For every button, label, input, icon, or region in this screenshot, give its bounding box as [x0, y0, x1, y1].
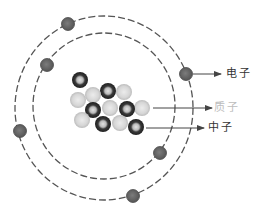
- proton-particle: [116, 84, 132, 100]
- electron-particle: [127, 190, 140, 203]
- proton-particle: [74, 112, 90, 128]
- neutron-particle: [72, 72, 88, 88]
- electron-particle: [154, 147, 167, 160]
- proton-particle: [85, 87, 101, 103]
- neutron-label: 中子: [208, 122, 234, 134]
- electron-particle: [180, 68, 193, 81]
- neutron-particle: [128, 119, 144, 135]
- proton-particle: [102, 100, 118, 116]
- proton-particle: [134, 100, 150, 116]
- neutron-particle: [100, 83, 116, 99]
- electron-particle: [41, 59, 54, 72]
- proton-particle: [112, 115, 128, 131]
- proton-particle: [70, 92, 86, 108]
- electron-particle: [14, 125, 27, 138]
- neutron-particle: [119, 101, 135, 117]
- nucleus-group: [70, 72, 150, 135]
- electron-particle: [62, 18, 75, 31]
- neutron-particle: [95, 116, 111, 132]
- proton-label: 质子: [214, 102, 240, 114]
- callout-arrows-group: [146, 74, 221, 128]
- electron-label: 电子: [226, 68, 252, 80]
